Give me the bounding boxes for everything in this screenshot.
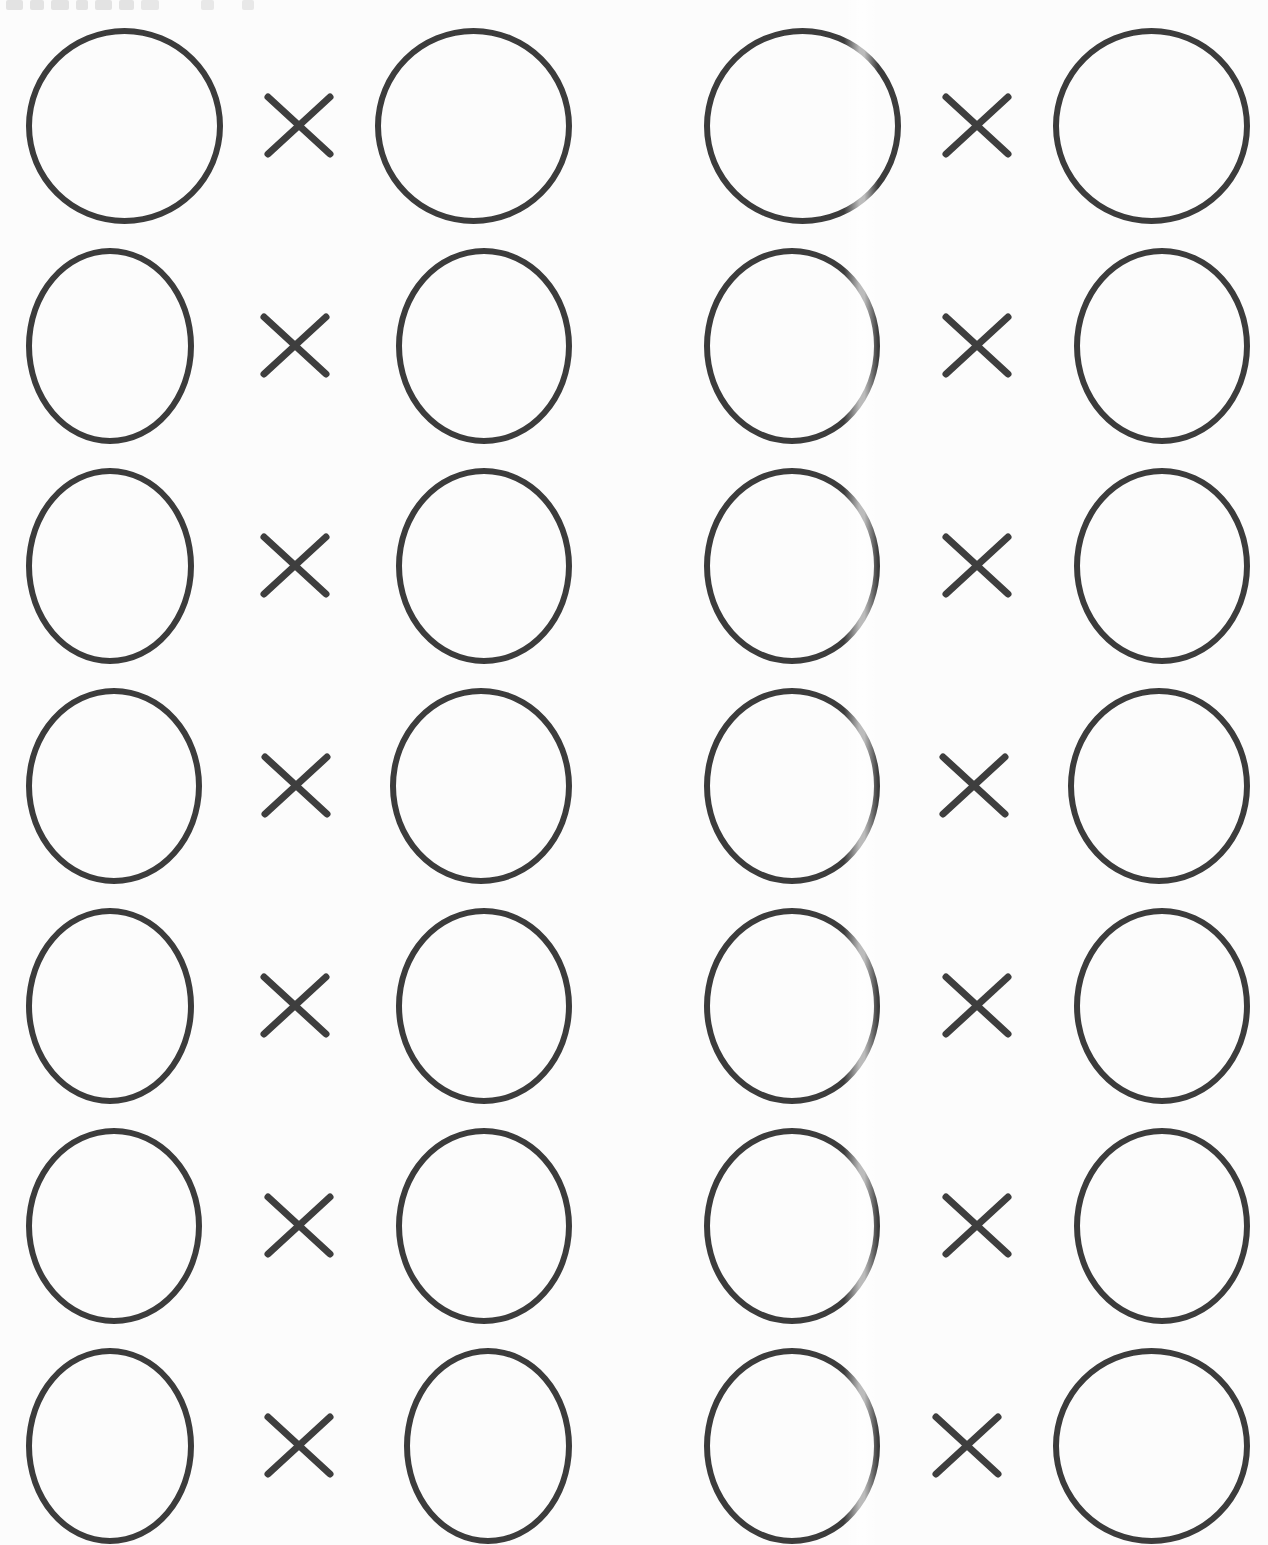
answer-circle-left bbox=[26, 248, 194, 444]
multiply-icon bbox=[260, 90, 338, 162]
problems-grid bbox=[26, 28, 1250, 1544]
problem-cell bbox=[704, 248, 1250, 444]
problem-cell bbox=[704, 468, 1250, 664]
answer-circle-right bbox=[396, 248, 572, 444]
multiply-icon bbox=[256, 970, 334, 1042]
artifact-mark bbox=[242, 0, 254, 10]
multiply-icon bbox=[260, 1410, 338, 1482]
multiply-icon bbox=[938, 310, 1016, 382]
answer-circle-right bbox=[1053, 28, 1250, 224]
answer-circle-left bbox=[704, 248, 880, 444]
answer-circle-left bbox=[704, 468, 880, 664]
answer-circle-left bbox=[704, 908, 880, 1104]
problem-cell bbox=[704, 908, 1250, 1104]
problem-cell bbox=[704, 1128, 1250, 1324]
answer-circle-right bbox=[1074, 1128, 1250, 1324]
answer-circle-right bbox=[396, 1128, 572, 1324]
problem-cell bbox=[26, 908, 572, 1104]
answer-circle-left bbox=[704, 28, 901, 224]
problem-cell bbox=[26, 248, 572, 444]
answer-circle-left bbox=[704, 1348, 880, 1544]
artifact-mark bbox=[141, 0, 159, 10]
answer-circle-right bbox=[1074, 908, 1250, 1104]
answer-circle-left bbox=[26, 688, 202, 884]
worksheet-page bbox=[0, 0, 1268, 1545]
problem-cell bbox=[26, 1128, 572, 1324]
answer-circle-right bbox=[396, 908, 572, 1104]
multiply-icon bbox=[260, 1190, 338, 1262]
answer-circle-left bbox=[26, 908, 194, 1104]
multiply-icon bbox=[256, 310, 334, 382]
problem-cell bbox=[26, 688, 572, 884]
answer-circle-right bbox=[404, 1348, 572, 1544]
artifact-mark bbox=[119, 0, 134, 10]
multiply-icon bbox=[256, 530, 334, 602]
answer-circle-right bbox=[390, 688, 572, 884]
problem-cell bbox=[26, 28, 572, 224]
artifact-mark bbox=[201, 0, 214, 10]
artifact-mark bbox=[76, 0, 88, 10]
artifact-mark bbox=[51, 0, 69, 10]
artifact-mark bbox=[30, 0, 44, 10]
multiply-icon bbox=[938, 530, 1016, 602]
problem-cell bbox=[26, 468, 572, 664]
problem-cell bbox=[26, 1348, 572, 1544]
multiply-icon bbox=[938, 970, 1016, 1042]
answer-circle-left bbox=[26, 1348, 194, 1544]
artifact-mark bbox=[6, 0, 23, 10]
clipped-header-text-artifact bbox=[6, 0, 254, 10]
multiply-icon bbox=[257, 750, 335, 822]
answer-circle-right bbox=[1074, 248, 1250, 444]
multiply-icon bbox=[928, 1410, 1006, 1482]
answer-circle-left bbox=[704, 688, 880, 884]
answer-circle-right bbox=[396, 468, 572, 664]
multiply-icon bbox=[938, 1190, 1016, 1262]
answer-circle-left bbox=[26, 468, 194, 664]
answer-circle-right bbox=[1068, 688, 1250, 884]
problem-cell bbox=[704, 1348, 1250, 1544]
problem-cell bbox=[704, 688, 1250, 884]
answer-circle-right bbox=[1074, 468, 1250, 664]
answer-circle-right bbox=[375, 28, 572, 224]
answer-circle-left bbox=[26, 1128, 202, 1324]
multiply-icon bbox=[938, 90, 1016, 162]
answer-circle-left bbox=[26, 28, 223, 224]
problem-cell bbox=[704, 28, 1250, 224]
answer-circle-left bbox=[704, 1128, 880, 1324]
multiply-icon bbox=[935, 750, 1013, 822]
artifact-mark bbox=[95, 0, 112, 10]
answer-circle-right bbox=[1053, 1348, 1250, 1544]
